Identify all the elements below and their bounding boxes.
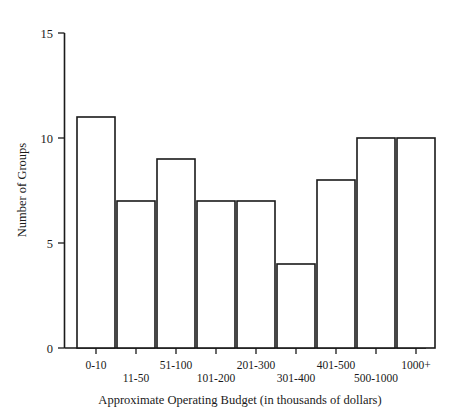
bar-6	[317, 180, 355, 348]
chart-canvas: 0 5 10 15 Number of Groups	[0, 0, 449, 414]
x-label-0: 0-10	[85, 359, 106, 371]
x-label-2: 51-100	[160, 359, 193, 371]
bar-1	[117, 201, 155, 348]
bar-5	[277, 264, 315, 348]
x-label-4: 201-300	[237, 359, 276, 371]
y-tick-label-0: 0	[47, 342, 53, 356]
bar-4	[237, 201, 275, 348]
x-axis-title: Approximate Operating Budget (in thousan…	[98, 393, 381, 407]
bar-0	[77, 117, 115, 348]
x-label-1: 11-50	[123, 372, 150, 384]
x-label-3: 101-200	[197, 372, 236, 384]
y-tick-label-10: 10	[41, 132, 54, 146]
bar-3	[197, 201, 235, 348]
x-label-7: 500-1000	[354, 372, 398, 384]
bar-2	[157, 159, 195, 348]
y-axis-title: Number of Groups	[15, 143, 29, 238]
y-tick-label-15: 15	[41, 27, 54, 41]
bar-7	[357, 138, 395, 348]
y-tick-label-5: 5	[47, 237, 53, 251]
bar-chart: 0 5 10 15 Number of Groups	[0, 0, 449, 414]
x-label-5: 301-400	[277, 372, 316, 384]
x-label-6: 401-500	[317, 359, 356, 371]
bar-8	[397, 138, 435, 348]
x-label-8: 1000+	[401, 359, 431, 371]
